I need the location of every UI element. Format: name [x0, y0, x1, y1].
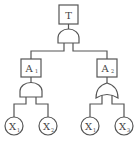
a1-label: A	[24, 63, 33, 74]
basic-event-x1-right: X 1	[81, 117, 99, 135]
fault-tree-diagram: T A 1 A 2 X 1 X 2 X	[0, 0, 138, 146]
top-event-label: T	[65, 10, 72, 21]
top-event-box: T	[59, 5, 78, 24]
svg-text:X: X	[43, 121, 51, 132]
intermediate-event-a1: A 1	[21, 59, 41, 77]
and-gate-icon	[58, 29, 79, 43]
svg-text:A: A	[100, 63, 109, 74]
and-gate-icon	[20, 83, 42, 98]
svg-text:1: 1	[17, 127, 20, 133]
svg-text:X: X	[9, 121, 17, 132]
or-gate-icon	[96, 83, 118, 98]
svg-text:2: 2	[51, 127, 54, 133]
svg-text:A: A	[24, 63, 33, 74]
a2-label: A	[100, 63, 109, 74]
svg-text:X: X	[85, 121, 93, 132]
svg-text:1: 1	[93, 127, 96, 133]
svg-text:X: X	[119, 121, 127, 132]
basic-event-x3: X 3	[115, 117, 133, 135]
svg-text:3: 3	[127, 127, 130, 133]
a1-subscript: 1	[35, 68, 38, 74]
intermediate-event-a2: A 2	[97, 59, 117, 77]
a2-subscript: 2	[111, 68, 114, 74]
basic-event-x2: X 2	[39, 117, 57, 135]
basic-event-x1-left: X 1	[5, 117, 23, 135]
